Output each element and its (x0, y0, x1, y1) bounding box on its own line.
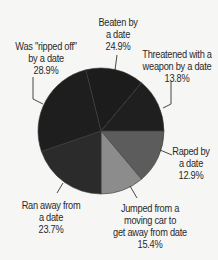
label-value: 28.9% (11, 64, 81, 76)
label-text: by a date (11, 52, 81, 64)
leader-line-beaten (115, 55, 117, 70)
label-value: 13.8% (137, 72, 216, 84)
label-text: moving car to (113, 214, 187, 226)
label-jumped: Jumped from a moving car to get away fro… (113, 202, 187, 250)
label-text: Raped by (169, 145, 213, 157)
label-text: Was "ripped off" (11, 40, 81, 52)
label-threatened: Threatened with a weapon by a date 13.8% (137, 48, 216, 84)
label-text: weapon by a date (137, 60, 216, 72)
leader-line-rippedoff (33, 77, 43, 104)
pie-slices (38, 68, 164, 194)
label-ranaway: Ran away from a date 23.7% (20, 199, 82, 235)
label-text: a date (92, 28, 145, 40)
label-text: Beaten by (92, 16, 145, 28)
label-text: a date (20, 211, 82, 223)
label-text: Jumped from a (113, 202, 187, 214)
label-raped: Raped by a date 12.9% (169, 145, 213, 181)
label-beaten: Beaten by a date 24.9% (92, 16, 145, 52)
label-text: get away from date (113, 226, 187, 238)
label-text: Ran away from (20, 199, 82, 211)
leader-line-threatened (163, 82, 171, 108)
label-value: 15.4% (113, 238, 187, 250)
label-value: 12.9% (169, 169, 213, 181)
label-text: Threatened with a (137, 48, 216, 60)
leader-line-jumped (130, 186, 137, 198)
label-value: 23.7% (20, 223, 82, 235)
leader-line-ranaway (57, 183, 63, 193)
label-rippedoff: Was "ripped off" by a date 28.9% (11, 40, 81, 76)
label-text: a date (169, 157, 213, 169)
